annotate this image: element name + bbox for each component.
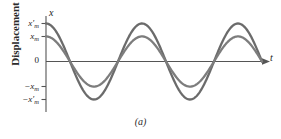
tick-label-x-m-pos: xm [0, 31, 39, 41]
tick-label-zero: 0 [0, 55, 39, 65]
tick-label-x-m-neg: −xm [0, 81, 39, 91]
y-axis-variable-label: x [49, 7, 53, 18]
x-axis-arrowhead [262, 58, 270, 64]
tick-label-sub-4: m [34, 85, 39, 92]
tick-label-x-prime-m-pos: x′m [0, 18, 39, 28]
tick-label-sub-5: m [34, 98, 39, 105]
tick-label-base-3: 0 [35, 55, 40, 65]
figure-caption: (a) [0, 116, 281, 127]
tick-label-sub-2: m [34, 35, 39, 42]
displacement-vs-time-figure: Displacement x t x′m xm 0 −xm −x′m (a) [0, 0, 281, 139]
tick-label-sub-1: m [34, 22, 39, 29]
tick-label-x-prime-m-neg: −x′m [0, 94, 39, 104]
x-axis-variable-label: t [270, 52, 273, 63]
